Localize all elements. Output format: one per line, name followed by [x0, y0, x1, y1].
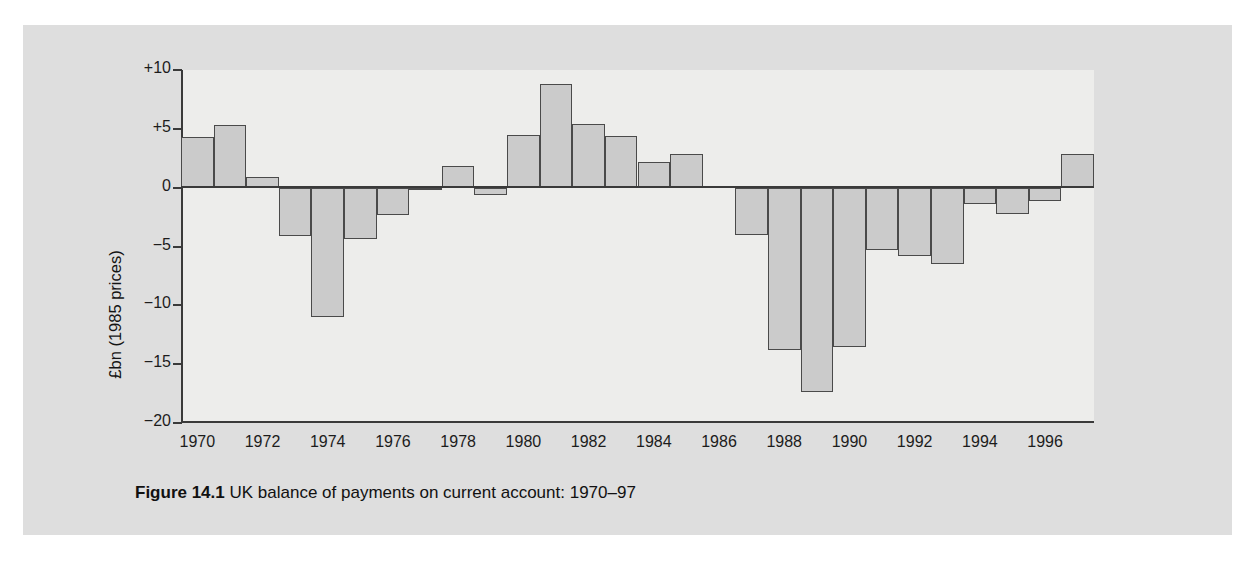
x-tick-label-1990: 1990	[832, 433, 868, 451]
y-tick-label: +10	[144, 59, 171, 77]
plot-area	[181, 70, 1094, 423]
caption-text: UK balance of payments on current accoun…	[230, 483, 636, 502]
bar-1984	[638, 162, 671, 188]
bar-1988	[768, 188, 801, 350]
bar-1996	[1029, 188, 1062, 201]
bar-1976	[377, 188, 410, 215]
bar-1991	[866, 188, 899, 250]
y-tick-mark	[173, 128, 182, 130]
figure-panel: £bn (1985 prices) +10+50−5−10−15−20 1970…	[23, 25, 1232, 535]
x-tick-label-1976: 1976	[375, 433, 411, 451]
bar-1981	[540, 84, 573, 188]
zero-baseline	[181, 186, 1094, 188]
bar-1995	[996, 188, 1029, 214]
y-tick-mark	[173, 304, 182, 306]
x-tick-label-1972: 1972	[245, 433, 281, 451]
y-tick-label: −5	[153, 236, 171, 254]
bar-1983	[605, 136, 638, 188]
x-tick-label-1970: 1970	[180, 433, 216, 451]
bar-1987	[735, 188, 768, 235]
bar-1989	[801, 188, 834, 393]
bar-1980	[507, 135, 540, 188]
bar-1979	[474, 188, 507, 195]
y-tick-label: −10	[144, 294, 171, 312]
bar-1975	[344, 188, 377, 240]
x-axis-tick-labels: 1970197219741976197819801982198419861988…	[181, 433, 1094, 457]
x-tick-label-1992: 1992	[897, 433, 933, 451]
bar-1977	[409, 188, 442, 190]
y-axis-tick-labels: +10+50−5−10−15−20	[103, 70, 171, 423]
x-tick-label-1982: 1982	[571, 433, 607, 451]
y-tick-label: +5	[153, 118, 171, 136]
x-tick-label-1986: 1986	[701, 433, 737, 451]
x-tick-label-1984: 1984	[636, 433, 672, 451]
y-tick-mark	[173, 246, 182, 248]
y-tick-label: −20	[144, 412, 171, 430]
x-tick-label-1978: 1978	[440, 433, 476, 451]
x-tick-label-1988: 1988	[766, 433, 802, 451]
bar-1990	[833, 188, 866, 347]
bar-1985	[670, 154, 703, 188]
figure-caption: Figure 14.1 UK balance of payments on cu…	[135, 483, 1135, 503]
y-tick-label: −15	[144, 353, 171, 371]
x-tick-label-1994: 1994	[962, 433, 998, 451]
bar-1970	[181, 137, 214, 188]
bar-1992	[898, 188, 931, 256]
bar-1993	[931, 188, 964, 264]
bar-1974	[311, 188, 344, 317]
x-tick-label-1980: 1980	[506, 433, 542, 451]
bar-1978	[442, 166, 475, 187]
y-tick-mark	[173, 422, 182, 424]
y-tick-mark	[173, 363, 182, 365]
bar-1971	[214, 125, 247, 187]
bar-1997	[1061, 154, 1094, 188]
x-axis-line	[181, 421, 1094, 423]
bar-1994	[964, 188, 997, 204]
caption-label: Figure 14.1	[135, 483, 225, 502]
x-tick-label-1996: 1996	[1027, 433, 1063, 451]
bar-1982	[572, 124, 605, 188]
x-tick-label-1974: 1974	[310, 433, 346, 451]
y-tick-mark	[173, 69, 182, 71]
plot-inner	[181, 70, 1094, 423]
bar-1973	[279, 188, 312, 236]
y-axis-title-container: £bn (1985 prices)	[53, 155, 93, 355]
y-tick-label: 0	[162, 177, 171, 195]
